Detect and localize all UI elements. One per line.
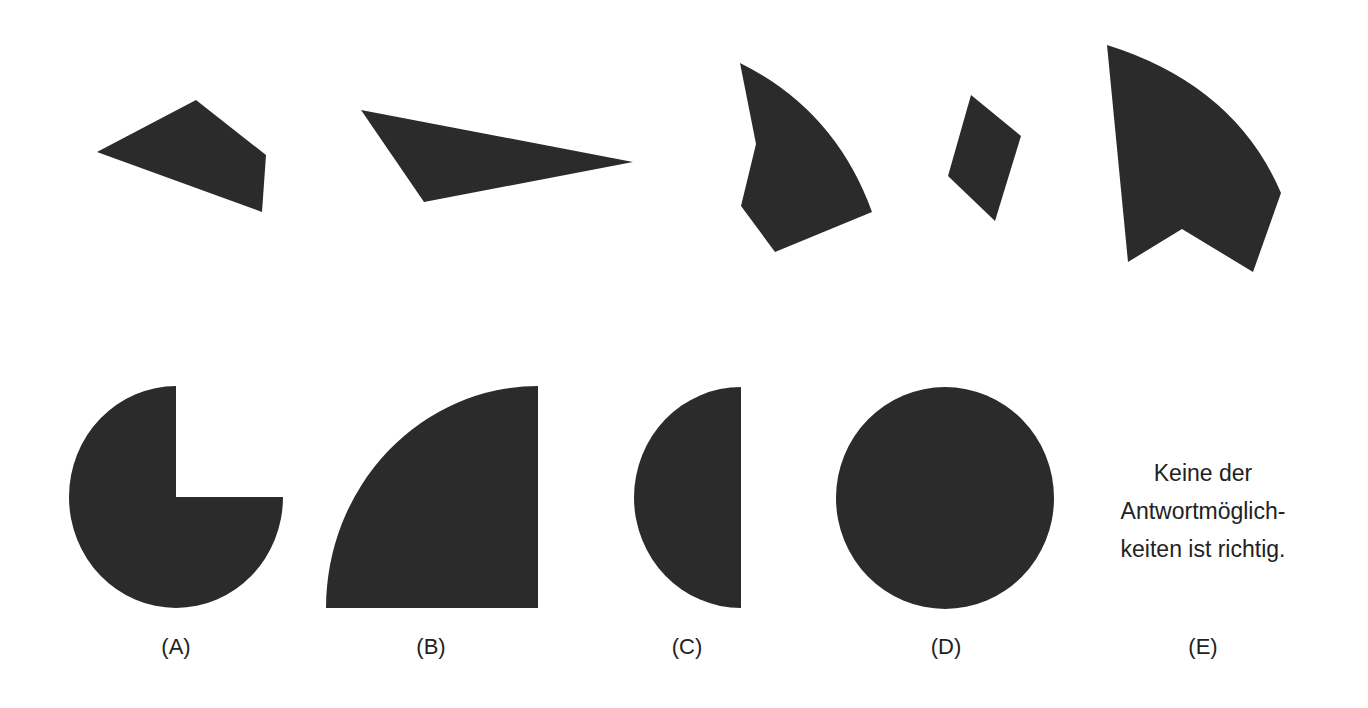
option-a-three-quarter-circle[interactable]	[69, 386, 283, 608]
option-d-circle[interactable]	[836, 387, 1054, 609]
puzzle-figure	[0, 0, 1368, 708]
option-c-half-ellipse[interactable]	[634, 387, 741, 608]
option-b-quarter-circle[interactable]	[326, 386, 538, 608]
option-d-label[interactable]: (D)	[931, 636, 962, 658]
piece-4-parallelogram	[948, 95, 1021, 221]
option-a-label[interactable]: (A)	[161, 636, 190, 658]
option-c-label[interactable]: (C)	[672, 636, 703, 658]
puzzle-pieces	[97, 45, 1281, 272]
option-e-text-line-3: keiten ist richtig.	[1121, 530, 1286, 568]
option-e-text-line-2: Antwortmöglich-	[1121, 492, 1286, 530]
piece-1-quadrilateral	[97, 100, 266, 212]
answer-options	[69, 386, 1054, 609]
piece-2-triangle	[361, 110, 633, 202]
option-e-text-line-1: Keine der	[1121, 454, 1286, 492]
option-e-label[interactable]: (E)	[1188, 636, 1217, 658]
option-b-label[interactable]: (B)	[416, 636, 445, 658]
piece-3-curved-shape	[740, 63, 872, 252]
piece-5-notched-sector	[1107, 45, 1281, 272]
option-e-text[interactable]: Keine der Antwortmöglich- keiten ist ric…	[1121, 454, 1286, 568]
